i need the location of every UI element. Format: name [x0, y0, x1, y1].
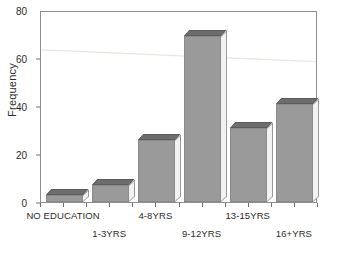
- x-tick-label: 1-3YRS: [92, 228, 126, 239]
- y-tick-label: 40: [0, 102, 27, 113]
- x-tick-mark: [63, 203, 64, 207]
- bar-side-face: [175, 134, 181, 202]
- bar: [138, 140, 175, 202]
- x-tick-mark: [86, 203, 87, 207]
- plot-area: [40, 11, 317, 203]
- y-tick-label: 80: [0, 6, 27, 17]
- x-tick-mark: [317, 203, 318, 207]
- y-tick-label: 60: [0, 54, 27, 65]
- bar-side-face: [313, 98, 319, 202]
- bar: [46, 195, 83, 202]
- x-tick-mark: [109, 203, 110, 207]
- x-tick-mark: [225, 203, 226, 207]
- bar-front-face: [184, 36, 221, 202]
- bar-front-face: [230, 128, 267, 202]
- bar-chart: Frequency 020406080 NO EDUCATION1-3YRS4-…: [0, 0, 347, 253]
- bar-side-face: [221, 31, 227, 202]
- x-tick-mark: [294, 203, 295, 207]
- bar: [230, 128, 267, 202]
- y-tick-label: 20: [0, 150, 27, 161]
- x-tick-mark: [248, 203, 249, 207]
- bar-top-face: [230, 122, 272, 128]
- bar-front-face: [276, 104, 313, 202]
- bar: [184, 36, 221, 202]
- bar-top-face: [184, 30, 226, 36]
- bar-top-face: [138, 134, 180, 140]
- bar: [92, 185, 129, 202]
- bar-top-face: [92, 179, 134, 185]
- bar-top-face: [276, 98, 318, 104]
- x-tick-mark: [202, 203, 203, 207]
- x-tick-mark: [132, 203, 133, 207]
- bar-side-face: [267, 122, 273, 202]
- y-tick-label: 0: [0, 198, 27, 209]
- bar-front-face: [138, 140, 175, 202]
- x-tick-mark: [40, 203, 41, 207]
- x-tick-label: NO EDUCATION: [26, 210, 99, 221]
- x-tick-mark: [155, 203, 156, 207]
- bar-top-face: [46, 189, 88, 195]
- x-tick-label: 13-15YRS: [225, 210, 270, 221]
- x-tick-label: 16+YRS: [276, 228, 312, 239]
- bar-front-face: [46, 195, 83, 202]
- x-tick-mark: [179, 203, 180, 207]
- bar: [276, 104, 313, 202]
- bar-front-face: [92, 185, 129, 202]
- x-tick-label: 9-12YRS: [182, 228, 221, 239]
- x-tick-label: 4-8YRS: [138, 210, 172, 221]
- x-tick-mark: [271, 203, 272, 207]
